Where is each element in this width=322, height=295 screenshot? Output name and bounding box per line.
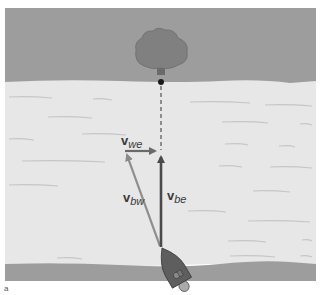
figure-caption: a <box>4 284 8 293</box>
label-vwe: vwe <box>121 133 142 148</box>
label-vbe: vbe <box>167 188 186 203</box>
label-vbw: vbw <box>123 190 144 205</box>
river-crossing-diagram <box>0 0 322 295</box>
target-point <box>158 79 164 85</box>
